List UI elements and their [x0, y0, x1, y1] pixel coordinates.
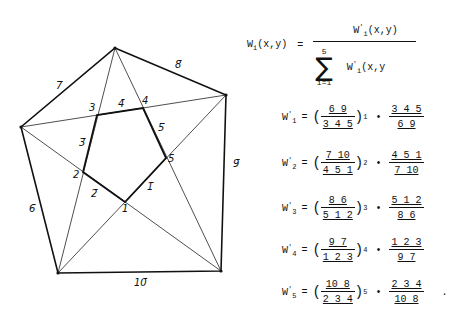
open-paren: ( — [312, 200, 320, 216]
pentagon-diagram: 12345 1̄2̄3̄4̄5̄6̄7̄8̄9̄10̄ — [0, 0, 240, 324]
vertex-label: 5 — [168, 153, 174, 164]
multiply-dot: • — [375, 203, 381, 214]
edge-label: 6̄ — [29, 203, 36, 214]
weight-row: W'4=(9 71 2 3)4•1 2 39 7 — [282, 237, 442, 263]
edge-label: 3̄ — [79, 137, 86, 148]
formula-denominator: 5 ∑ i=1 W'i(x,y — [313, 42, 415, 87]
edge-label: 4̄ — [118, 98, 125, 109]
vertex-label: 3 — [89, 102, 95, 113]
edge-label: 8̄ — [175, 59, 182, 70]
row-lhs: W'3 — [282, 203, 296, 214]
edge-label: 7̄ — [56, 80, 63, 91]
close-paren: ) — [355, 284, 363, 300]
row-left-fraction: 10 82 3 4 — [321, 279, 355, 305]
formula-equals: = — [297, 40, 303, 51]
row-trailing-period: . — [442, 287, 448, 298]
close-paren: ) — [355, 155, 363, 171]
row-left-fraction: 7 104 5 1 — [321, 150, 355, 176]
row-equals: = — [301, 287, 307, 298]
row-index: 5 — [363, 288, 367, 296]
row-right-fraction: 4 5 17 10 — [389, 150, 423, 176]
row-index: 3 — [363, 204, 367, 212]
vertex-label: 1 — [122, 203, 128, 214]
weight-row: W'1=(6 93 4 5)1•3 4 56 9 — [282, 104, 442, 130]
row-right-fraction: 2 3 410 8 — [389, 279, 423, 305]
row-left-fraction: 8 65 1 2 — [321, 195, 355, 221]
multiply-dot: • — [375, 245, 381, 256]
summation: 5 ∑ i=1 — [315, 48, 333, 87]
outer-pentagon — [21, 48, 226, 273]
row-left-fraction: 9 71 2 3 — [321, 237, 355, 263]
edge-label: 10̄ — [134, 277, 148, 288]
row-lhs: W'5 — [282, 287, 296, 298]
row-lhs: W'4 — [282, 245, 296, 256]
row-equals: = — [301, 112, 307, 123]
row-right-fraction: 3 4 56 9 — [389, 104, 423, 130]
weight-row: W'3=(8 65 1 2)3•5 1 28 6 — [282, 195, 442, 221]
close-paren: ) — [355, 200, 363, 216]
vertex-dots — [19, 46, 227, 274]
edge-label: 5̄ — [158, 122, 165, 133]
sigma-icon: ∑ — [315, 56, 333, 79]
open-paren: ( — [312, 242, 320, 258]
row-equals: = — [301, 203, 307, 214]
row-lhs: W'1 — [282, 112, 296, 123]
row-right-fraction: 1 2 39 7 — [389, 237, 423, 263]
multiply-dot: • — [375, 158, 381, 169]
formula-fraction: W'i(x,y) 5 ∑ i=1 W'i(x,y — [313, 24, 415, 87]
open-paren: ( — [312, 109, 320, 125]
open-paren: ( — [312, 155, 320, 171]
vertex-label: 4 — [142, 95, 148, 106]
multiply-dot: • — [375, 287, 381, 298]
row-right-fraction: 5 1 28 6 — [389, 195, 423, 221]
close-paren: ) — [355, 109, 363, 125]
main-formula: Wi(x,y) = W'i(x,y) 5 ∑ i=1 W'i(x,y — [247, 14, 416, 77]
edge-label: 1̄ — [147, 181, 154, 192]
row-index: 1 — [363, 113, 367, 121]
multiply-dot: • — [375, 112, 381, 123]
weight-row: W'2=(7 104 5 1)2•4 5 17 10 — [282, 150, 442, 176]
row-lhs: W'2 — [282, 158, 296, 169]
row-equals: = — [301, 158, 307, 169]
row-index: 4 — [363, 246, 367, 254]
row-index: 2 — [363, 159, 367, 167]
vertex-label: 2 — [73, 169, 79, 180]
edge-label: 2̄ — [91, 188, 98, 199]
formula-numerator: W'i(x,y) — [313, 24, 415, 42]
row-equals: = — [301, 245, 307, 256]
formula-lhs: Wi(x,y) — [247, 39, 287, 50]
weight-row: W'5=(10 82 3 4)5•2 3 410 8. — [282, 279, 448, 305]
close-paren: ) — [355, 242, 363, 258]
row-left-fraction: 6 93 4 5 — [321, 104, 355, 130]
edge-label: 9̄ — [233, 158, 240, 169]
open-paren: ( — [312, 284, 320, 300]
